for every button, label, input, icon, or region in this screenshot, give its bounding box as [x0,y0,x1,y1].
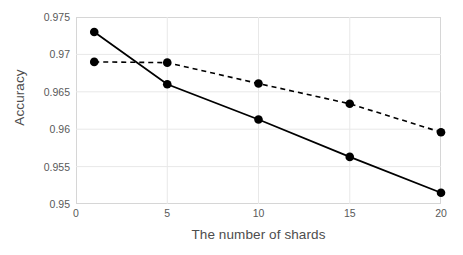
solid-series-line [94,32,441,193]
data-point [345,153,354,162]
x-tick-label: 15 [344,207,356,219]
data-point [254,115,263,124]
x-tick-label: 10 [253,207,265,219]
data-point [437,188,446,197]
plot-canvas [76,17,441,204]
dashed-series-markers [90,58,445,137]
y-tick-label: 0.965 [28,86,70,98]
data-point [90,28,99,37]
y-tick-label: 0.96 [28,123,70,135]
y-tick-label: 0.95 [28,198,70,210]
data-point [254,79,263,88]
data-point [345,99,354,108]
data-point [90,58,99,67]
x-axis-title: The number of shards [76,227,441,242]
vertical-gridlines [167,17,350,204]
dashed-series-line [94,62,441,132]
data-point [163,80,172,89]
y-tick-label: 0.97 [28,48,70,60]
solid-series-markers [90,28,445,197]
y-tick-label: 0.955 [28,161,70,173]
y-axis-tick-labels: 0.975 0.97 0.965 0.96 0.955 0.95 [28,0,70,255]
x-tick-label: 20 [435,207,447,219]
y-tick-label: 0.975 [28,11,70,23]
x-tick-label: 5 [164,207,170,219]
data-point [163,58,172,67]
line-chart: Accuracy 0.975 0.97 0.965 0.96 0.955 0.9… [0,0,463,255]
data-point [437,128,446,137]
x-tick-label: 0 [73,207,79,219]
